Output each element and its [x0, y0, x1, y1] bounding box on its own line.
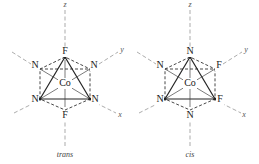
ligand-lower-right-label: N — [91, 93, 98, 104]
ligand-upper-right-label: N — [90, 59, 97, 70]
central-atom-label: Co — [184, 77, 196, 88]
ligand-lower-right-label: F — [217, 93, 223, 104]
ligand-top-label: F — [62, 45, 68, 56]
ligand-lower-left-label: N — [31, 93, 38, 104]
trans-isomer: Co F F N N N N z y x trans — [12, 0, 124, 159]
ligand-upper-right-label: F — [216, 59, 222, 70]
y-axis — [99, 52, 118, 64]
ligand-bottom-label: F — [62, 109, 68, 120]
z-axis-label: z — [62, 0, 67, 9]
x-axis-back — [137, 52, 156, 64]
z-axis-label: z — [187, 0, 192, 9]
x-axis-back — [12, 52, 31, 64]
cis-caption: cis — [186, 150, 195, 159]
central-atom-label: Co — [59, 77, 71, 88]
y-axis-label: y — [119, 45, 124, 54]
y-axis-label: y — [243, 45, 248, 54]
ligand-lower-left-label: N — [156, 93, 163, 104]
x-axis-label: x — [241, 110, 246, 119]
x-axis-label: x — [117, 110, 122, 119]
trans-caption: trans — [57, 150, 73, 159]
octahedral-isomers-diagram: Co F F N N N N z y x trans — [0, 0, 259, 164]
y-axis — [223, 52, 242, 64]
cis-isomer: Co N N N F N F z y x cis — [137, 0, 248, 159]
ligand-top-label: N — [186, 45, 193, 56]
ligand-upper-left-label: N — [31, 59, 38, 70]
ligand-upper-left-label: N — [156, 59, 163, 70]
ligand-bottom-label: N — [186, 109, 193, 120]
